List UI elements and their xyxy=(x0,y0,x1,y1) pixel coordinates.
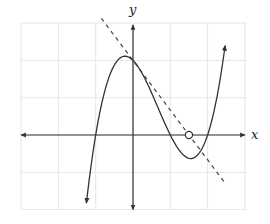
y-axis-label: y xyxy=(128,2,137,17)
open-circle-marker xyxy=(185,131,192,138)
axes xyxy=(21,25,245,210)
x-axis-label: x xyxy=(251,127,259,142)
cubic-curve xyxy=(86,46,225,204)
cubic-graph: x y xyxy=(0,0,270,224)
